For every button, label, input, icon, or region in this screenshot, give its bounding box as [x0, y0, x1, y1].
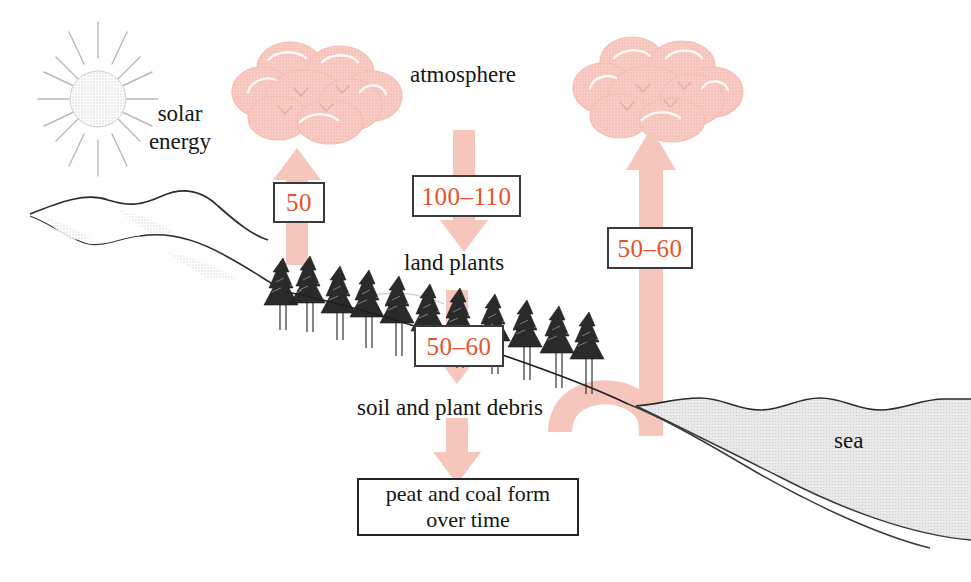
flux-box-litterfall: 50–60: [414, 325, 504, 367]
cloud-right-icon: [573, 37, 743, 142]
hills-terrain: [30, 191, 444, 304]
carbon-cycle-diagram: atmosphere solar energy land plants soil…: [0, 0, 971, 582]
label-atmosphere: atmosphere: [410, 62, 516, 88]
label-solar-energy-line2: energy: [125, 128, 235, 156]
label-solar-energy-line1: solar: [125, 100, 235, 128]
arrow-soil-to-peat: [433, 418, 481, 484]
label-land-plants: land plants: [404, 250, 504, 276]
label-solar-energy: solar energy: [125, 100, 235, 156]
flux-box-plant-respiration: 50: [273, 182, 325, 223]
flux-box-soil-respiration: 50–60: [607, 227, 693, 269]
label-soil-and-plant-debris: soil and plant debris: [357, 395, 543, 421]
outcome-box-line2: over time: [426, 507, 510, 533]
outcome-box-line1: peat and coal form: [386, 481, 550, 507]
cloud-left-icon: [232, 42, 402, 144]
outcome-box-peat-and-coal: peat and coal form over time: [357, 478, 579, 536]
arrow-soil-to-atmosphere-curved: [560, 128, 676, 436]
flux-box-photosynthesis: 100–110: [412, 175, 521, 217]
label-sea: sea: [834, 428, 863, 454]
sea-body: [636, 398, 971, 540]
